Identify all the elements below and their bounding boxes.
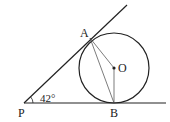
- angle-arc-p: [31, 97, 33, 103]
- tangent-line-pa: [24, 5, 127, 103]
- angle-label: 42°: [40, 92, 55, 104]
- segment-oa: [90, 38, 114, 68]
- label-a: A: [80, 26, 89, 40]
- segment-ab: [90, 38, 114, 103]
- label-b: B: [110, 106, 118, 120]
- label-o: O: [118, 61, 127, 75]
- center-point-o: [112, 66, 115, 69]
- geometry-diagram: A O P B 42°: [0, 0, 170, 122]
- label-p: P: [18, 106, 25, 120]
